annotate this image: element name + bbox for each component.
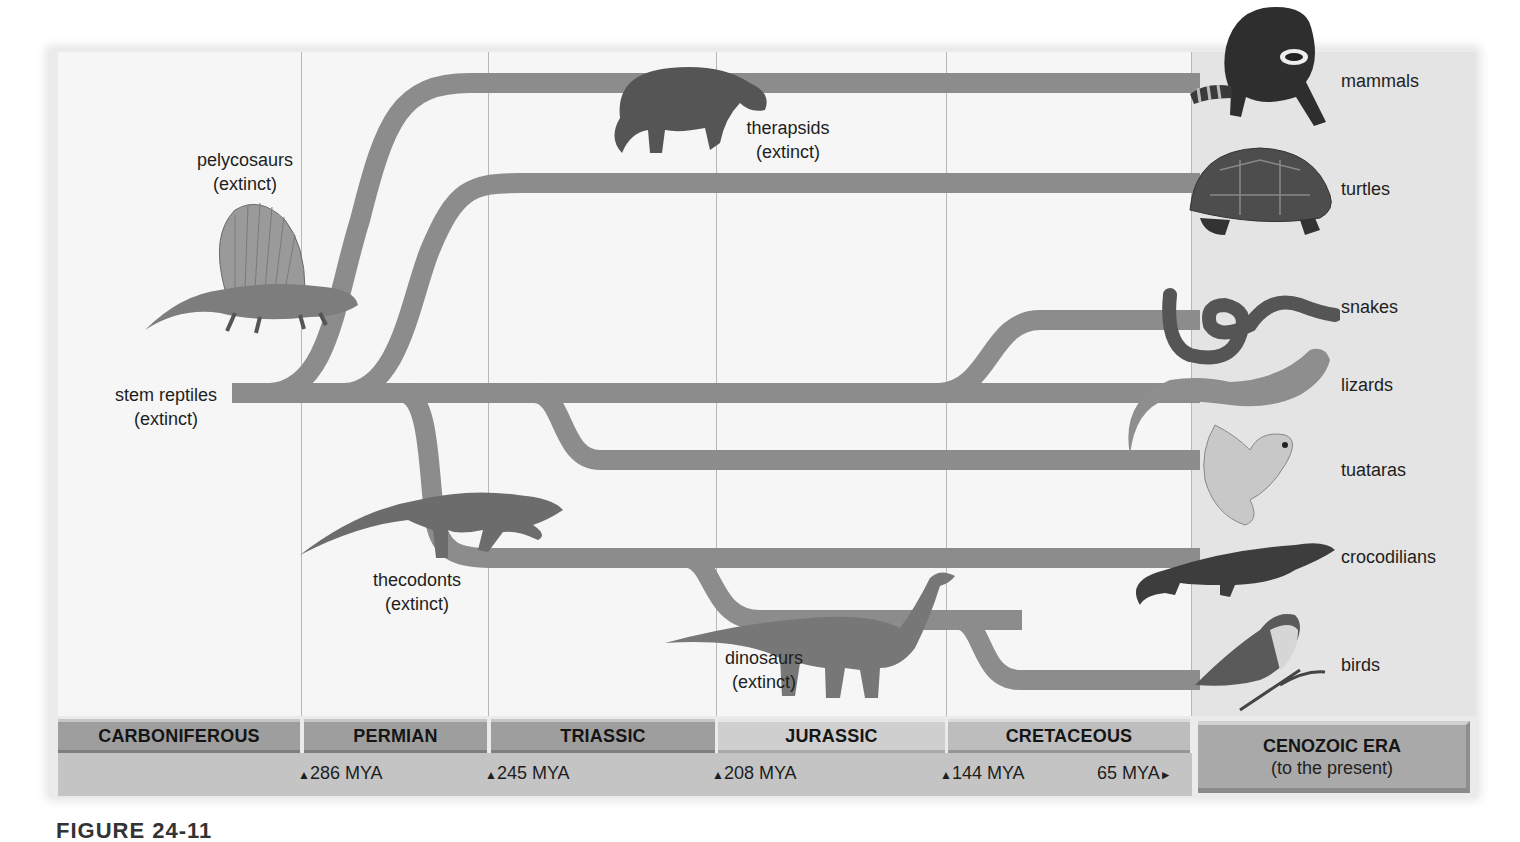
period-carboniferous: CARBONIFEROUS: [58, 719, 300, 753]
boundary-144: ▲144 MYA: [940, 763, 1025, 784]
dinosaurs-status: (extinct): [704, 670, 824, 694]
dinosaurs-label: dinosaurs (extinct): [704, 646, 824, 694]
pelycosaurs-status: (extinct): [180, 172, 310, 196]
boundary-245: ▲245 MYA: [485, 763, 570, 784]
turtle-icon: [1180, 140, 1340, 240]
thecodonts-label: thecodonts (extinct): [352, 568, 482, 616]
snakes-label: snakes: [1341, 295, 1398, 319]
period-permian: PERMIAN: [304, 719, 487, 753]
period-triassic: TRIASSIC: [491, 719, 715, 753]
right-triangle-icon: ►: [1160, 768, 1172, 782]
crocodilians-label: crocodilians: [1341, 545, 1436, 569]
period-jurassic: JURASSIC: [718, 719, 945, 753]
turtles-label: turtles: [1341, 177, 1390, 201]
pelycosaurs-label: pelycosaurs (extinct): [180, 148, 310, 196]
figure-caption: FIGURE 24-11: [56, 818, 212, 842]
tuatara-icon: [1190, 420, 1310, 530]
boundary-208: ▲208 MYA: [712, 763, 797, 784]
thecodonts-name: thecodonts: [352, 568, 482, 592]
lizards-label: lizards: [1341, 373, 1393, 397]
boundary-286: ▲286 MYA: [298, 763, 383, 784]
stem-reptiles-label: stem reptiles (extinct): [96, 383, 236, 431]
period-cretaceous: CRETACEOUS: [948, 719, 1190, 753]
therapsids-name: therapsids: [728, 116, 848, 140]
mammals-label: mammals: [1341, 69, 1419, 93]
stem-reptiles-status: (extinct): [96, 407, 236, 431]
tuataras-label: tuataras: [1341, 458, 1406, 482]
cenozoic-era-box: CENOZOIC ERA (to the present): [1198, 721, 1470, 793]
pelycosaur-dimetrodon-icon: [140, 195, 370, 335]
era-name: CENOZOIC ERA: [1263, 735, 1401, 757]
boundary-245-label: 245 MYA: [497, 763, 570, 783]
boundary-144-label: 144 MYA: [952, 763, 1025, 783]
pelycosaurs-name: pelycosaurs: [180, 148, 310, 172]
branch-tuataras: [535, 393, 1200, 460]
therapsids-label: therapsids (extinct): [728, 116, 848, 164]
era-subtitle: (to the present): [1271, 757, 1393, 779]
up-triangle-icon: ▲: [298, 768, 310, 782]
boundary-65-label: 65 MYA: [1097, 763, 1160, 783]
crocodile-icon: [1125, 525, 1345, 610]
thecodont-icon: [298, 480, 578, 575]
boundary-208-label: 208 MYA: [724, 763, 797, 783]
birds-label: birds: [1341, 653, 1380, 677]
up-triangle-icon: ▲: [485, 768, 497, 782]
branch-turtles: [345, 183, 1200, 393]
boundary-65: 65 MYA►: [1097, 763, 1172, 784]
up-triangle-icon: ▲: [712, 768, 724, 782]
therapsids-status: (extinct): [728, 140, 848, 164]
thecodonts-status: (extinct): [352, 592, 482, 616]
stem-reptiles-name: stem reptiles: [96, 383, 236, 407]
dinosaurs-name: dinosaurs: [704, 646, 824, 670]
up-triangle-icon: ▲: [940, 768, 952, 782]
bird-icon: [1190, 600, 1340, 715]
raccoon-icon: [1186, 2, 1336, 132]
boundary-286-label: 286 MYA: [310, 763, 383, 783]
